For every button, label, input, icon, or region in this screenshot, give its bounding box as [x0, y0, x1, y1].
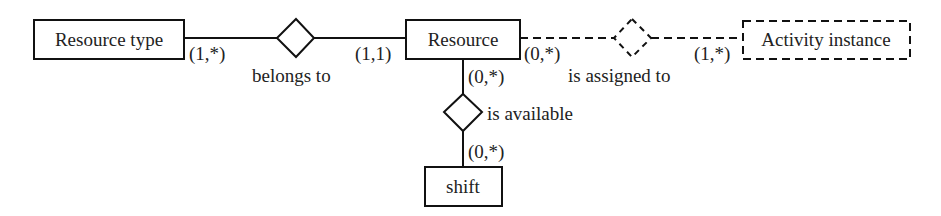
- er-diagram: Resource type Resource Activity instance…: [0, 0, 941, 216]
- cardinality-shift-is-available: (0,*): [468, 141, 504, 163]
- relationship-belongs-to-label: belongs to: [252, 65, 331, 86]
- diamond-is-assigned-to-icon: [614, 19, 651, 57]
- entity-resource-type[interactable]: Resource type: [34, 20, 184, 59]
- entity-shift-label: shift: [446, 176, 481, 197]
- cardinality-activity-is-assigned-to: (1,*): [694, 43, 730, 65]
- relationship-belongs-to[interactable]: [277, 19, 314, 57]
- cardinality-resource-belongs-to: (1,1): [355, 43, 391, 65]
- entity-resource[interactable]: Resource: [406, 20, 520, 59]
- entity-shift[interactable]: shift: [425, 167, 502, 206]
- entity-resource-type-label: Resource type: [55, 29, 163, 50]
- relationship-is-assigned-to[interactable]: [614, 19, 651, 57]
- diamond-is-available-icon: [444, 94, 482, 131]
- relationship-is-assigned-to-label: is assigned to: [568, 65, 670, 86]
- diamond-belongs-to-icon: [277, 19, 314, 57]
- cardinality-resource-type-belongs-to: (1,*): [189, 43, 225, 65]
- entity-activity-instance[interactable]: Activity instance: [743, 21, 910, 59]
- entity-activity-instance-label: Activity instance: [761, 29, 890, 50]
- entity-resource-label: Resource: [428, 29, 499, 50]
- cardinality-resource-is-assigned-to: (0,*): [524, 43, 560, 65]
- relationship-is-available-label: is available: [487, 103, 573, 124]
- cardinality-resource-is-available: (0,*): [468, 66, 504, 88]
- relationship-is-available[interactable]: [444, 94, 482, 131]
